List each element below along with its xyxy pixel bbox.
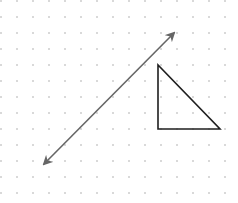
dot-grid-canvas[interactable]: [0, 0, 238, 203]
right-triangle[interactable]: [158, 65, 220, 129]
double-headed-arrow[interactable]: [44, 33, 174, 164]
shapes-layer: [0, 0, 238, 203]
